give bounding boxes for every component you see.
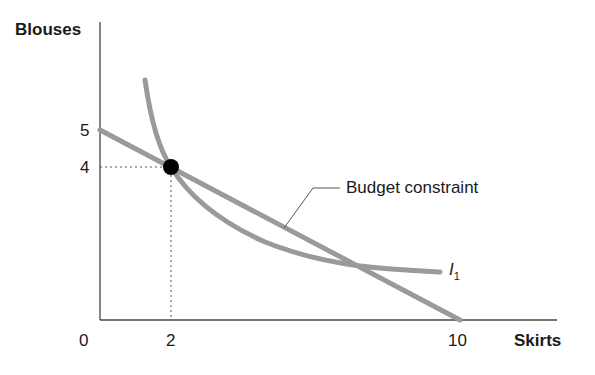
optimum-point	[163, 159, 179, 175]
indifference-curve-label: I1	[449, 261, 460, 282]
curve-label-subscript: 1	[454, 270, 460, 282]
chart-canvas	[0, 0, 595, 375]
x-axis-title: Skirts	[514, 332, 561, 349]
budget-constraint-line	[100, 130, 460, 320]
x-tick-10: 10	[448, 332, 467, 349]
y-axis-title: Blouses	[15, 21, 81, 38]
budget-callout-leader	[284, 188, 340, 228]
budget-constraint-label: Budget constraint	[346, 179, 478, 196]
y-tick-4: 4	[80, 159, 89, 176]
y-tick-5: 5	[80, 122, 89, 139]
x-tick-0: 0	[79, 332, 88, 349]
x-tick-2: 2	[166, 332, 175, 349]
